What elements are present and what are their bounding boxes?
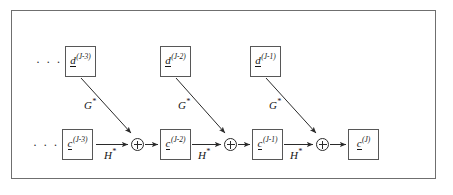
approx-coefficient-box-3[interactable]: c(J-1) — [252, 129, 283, 160]
operator-symbol: H — [290, 149, 298, 161]
detail-coefficient-box-3[interactable]: d(J-1) — [250, 46, 281, 77]
symbol: c — [68, 137, 73, 150]
circle-plus-icon-3 — [316, 138, 329, 151]
operator-symbol: G — [84, 99, 92, 111]
detail-coefficient-label-3: d(J-1) — [255, 55, 276, 66]
approx-coefficient-label-3: c(J-1) — [258, 138, 278, 149]
synthesis-detail-operator-label-2: G* — [178, 100, 190, 111]
operator-superscript: * — [277, 97, 281, 106]
operator-symbol: H — [198, 149, 206, 161]
synthesis-approx-operator-label-1: H* — [104, 150, 116, 161]
superscript: (J-2) — [171, 52, 186, 61]
figure-canvas: · · · · · · d(J-3) d(J-2) d(J-1) c(J-3) … — [0, 0, 453, 195]
operator-superscript: * — [92, 97, 96, 106]
symbol: c — [357, 137, 362, 150]
circle-plus-icon-2 — [224, 138, 237, 151]
approx-coefficient-box-4[interactable]: c(J) — [348, 129, 379, 160]
superscript: (J-3) — [76, 52, 91, 61]
approx-coefficient-label-4: c(J) — [357, 138, 371, 149]
symbol: d — [165, 54, 171, 67]
superscript: (J-1) — [261, 52, 276, 61]
synthesis-detail-operator-label-1: G* — [84, 100, 96, 111]
detail-coefficient-box-2[interactable]: d(J-2) — [160, 46, 191, 77]
synthesis-approx-operator-label-3: H* — [290, 150, 302, 161]
approx-row-ellipsis: · · · — [33, 139, 59, 151]
operator-symbol: G — [178, 99, 186, 111]
operator-symbol: H — [104, 149, 112, 161]
approx-coefficient-label-2: c(J-2) — [166, 138, 186, 149]
symbol: d — [255, 54, 261, 67]
symbol: c — [258, 137, 263, 150]
approx-coefficient-label-1: c(J-3) — [68, 138, 88, 149]
symbol: c — [166, 137, 171, 150]
superscript: (J-3) — [73, 135, 88, 144]
operator-superscript: * — [112, 147, 116, 156]
symbol: d — [70, 54, 76, 67]
superscript: (J) — [362, 135, 370, 144]
operator-superscript: * — [206, 147, 210, 156]
arrow-layer — [0, 0, 453, 195]
detail-coefficient-label-1: d(J-3) — [70, 55, 91, 66]
approx-coefficient-box-1[interactable]: c(J-3) — [62, 129, 93, 160]
operator-superscript: * — [186, 97, 190, 106]
operator-symbol: G — [269, 99, 277, 111]
circle-plus-icon-1 — [131, 138, 144, 151]
operator-superscript: * — [298, 147, 302, 156]
superscript: (J-2) — [171, 135, 186, 144]
synthesis-approx-operator-label-2: H* — [198, 150, 210, 161]
synthesis-detail-operator-label-3: G* — [269, 100, 281, 111]
detail-coefficient-box-1[interactable]: d(J-3) — [65, 46, 96, 77]
detail-row-ellipsis: · · · — [36, 56, 62, 68]
detail-coefficient-label-2: d(J-2) — [165, 55, 186, 66]
superscript: (J-1) — [263, 135, 278, 144]
approx-coefficient-box-2[interactable]: c(J-2) — [160, 129, 191, 160]
